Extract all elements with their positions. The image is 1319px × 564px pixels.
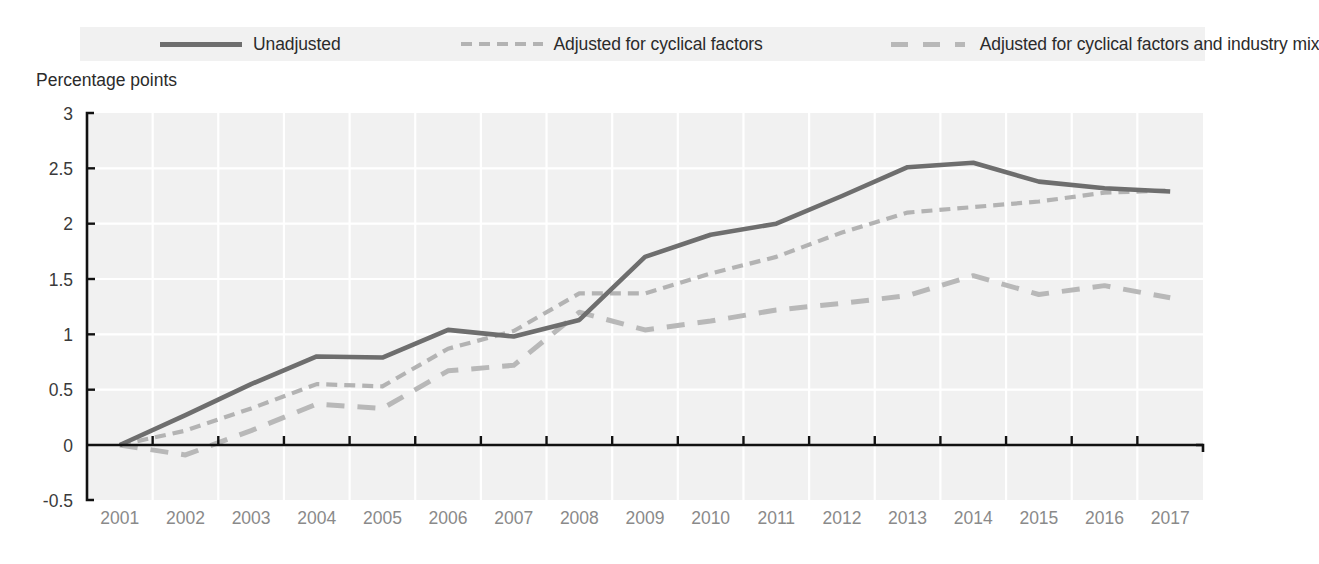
y-tick-label: -0.5 bbox=[43, 491, 73, 511]
x-tick-label: 2016 bbox=[1085, 508, 1124, 528]
plot-background bbox=[87, 113, 1203, 500]
x-tick-label: 2006 bbox=[429, 508, 468, 528]
x-tick-label: 2007 bbox=[494, 508, 533, 528]
y-tick-label: 0 bbox=[63, 436, 73, 456]
x-tick-label: 2010 bbox=[691, 508, 730, 528]
x-tick-label: 2003 bbox=[232, 508, 271, 528]
y-tick-label: 2 bbox=[63, 214, 73, 234]
x-tick-label: 2012 bbox=[822, 508, 861, 528]
x-tick-label: 2013 bbox=[888, 508, 927, 528]
x-axis-tick-labels: 2001200220032004200520062007200820092010… bbox=[100, 508, 1189, 528]
y-tick-label: 0.5 bbox=[49, 380, 73, 400]
x-tick-label: 2004 bbox=[297, 508, 336, 528]
y-tick-label: 2.5 bbox=[49, 159, 73, 179]
x-tick-label: 2017 bbox=[1151, 508, 1190, 528]
x-tick-label: 2015 bbox=[1019, 508, 1058, 528]
x-tick-label: 2008 bbox=[560, 508, 599, 528]
y-tick-label: 1.5 bbox=[49, 270, 73, 290]
y-axis-tick-labels: 32.521.510.50-0.5 bbox=[43, 104, 73, 511]
x-tick-label: 2002 bbox=[166, 508, 205, 528]
x-tick-label: 2001 bbox=[100, 508, 139, 528]
x-tick-label: 2011 bbox=[757, 508, 795, 528]
x-tick-label: 2005 bbox=[363, 508, 402, 528]
x-tick-label: 2009 bbox=[626, 508, 665, 528]
y-tick-label: 1 bbox=[63, 325, 73, 345]
y-tick-label: 3 bbox=[63, 104, 73, 124]
x-tick-label: 2014 bbox=[954, 508, 993, 528]
